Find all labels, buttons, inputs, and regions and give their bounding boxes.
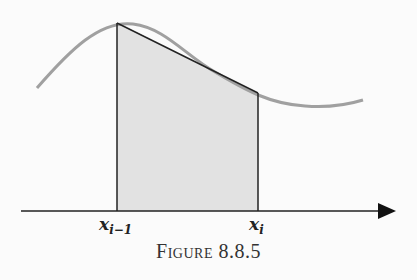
label-x-i: xi: [249, 214, 264, 237]
trapezoid-diagram: [0, 0, 417, 280]
label-x-i-minus-1: xi−1: [99, 214, 132, 237]
x-axis-arrow-icon: [378, 203, 396, 219]
figure-caption: Figure 8.8.5: [0, 240, 417, 263]
